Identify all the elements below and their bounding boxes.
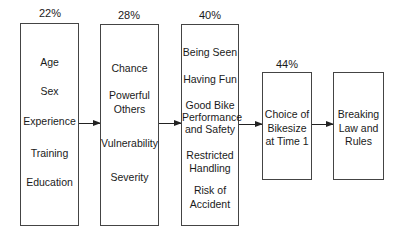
item-bikesize: Bikesize: [263, 122, 311, 135]
box1-percent: 22%: [20, 7, 80, 19]
item-rules: Rules: [334, 135, 383, 148]
box4-percent: 44%: [257, 58, 317, 70]
item-having-fun: Having Fun: [182, 73, 238, 86]
item-accident: Accident: [182, 198, 238, 211]
box3-percent: 40%: [180, 9, 240, 21]
item-handling: Handling: [182, 162, 238, 175]
bikesize-choice-box: Choice of Bikesize at Time 1: [262, 72, 312, 180]
item-training: Training: [21, 147, 78, 160]
demographics-box: Age Sex Experience Training Education: [20, 23, 79, 226]
item-experience: Experience: [21, 115, 78, 128]
item-severity: Severity: [101, 171, 158, 184]
item-chance: Chance: [101, 62, 158, 75]
arrow-4: [312, 124, 333, 125]
arrow-2: [159, 123, 181, 124]
item-law-and: Law and: [334, 122, 383, 135]
item-others: Others: [101, 103, 158, 116]
breaking-law-box: Breaking Law and Rules: [333, 72, 384, 180]
arrow-1: [79, 123, 100, 124]
item-education: Education: [21, 176, 78, 189]
item-being-seen: Being Seen: [182, 46, 238, 59]
item-powerful: Powerful: [101, 89, 158, 102]
item-vulnerability: Vulnerability: [101, 137, 158, 150]
attitudes-box: Being Seen Having Fun Good Bike Performa…: [181, 24, 239, 226]
item-at-time-1: at Time 1: [263, 135, 311, 148]
item-risk-of: Risk of: [182, 184, 238, 197]
item-and-safety: and Safety: [182, 123, 238, 136]
item-choice-of: Choice of: [263, 108, 311, 121]
arrow-3: [239, 124, 262, 125]
control-beliefs-box: Chance Powerful Others Vulnerability Sev…: [100, 24, 159, 226]
item-sex: Sex: [21, 85, 78, 98]
item-restricted: Restricted: [182, 149, 238, 162]
box2-percent: 28%: [99, 9, 159, 21]
item-age: Age: [21, 56, 78, 69]
item-breaking: Breaking: [334, 108, 383, 121]
